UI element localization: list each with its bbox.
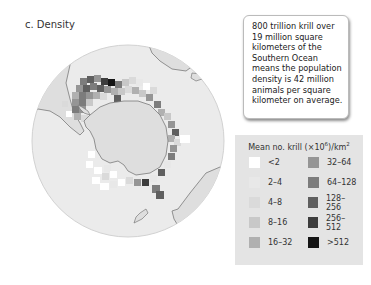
legend-item-256-512: 256–512 xyxy=(300,217,357,229)
legend-swatch xyxy=(249,177,260,188)
antarctic-density-map xyxy=(30,43,226,239)
legend-item-lt2: <2 xyxy=(241,157,298,169)
summary-callout: 800 trillion krill over 19 million squar… xyxy=(243,15,349,119)
legend-item-128-256: 128–256 xyxy=(300,197,357,209)
legend-grid: <2 32–64 2–4 64–128 4–8 128–256 8–16 256… xyxy=(241,157,357,249)
legend-swatch xyxy=(249,217,260,228)
legend-item-4-8: 4–8 xyxy=(241,197,298,209)
legend-swatch xyxy=(308,177,319,188)
legend-item-gt512: >512 xyxy=(300,237,357,249)
legend-swatch xyxy=(249,197,260,208)
legend-item-32-64: 32–64 xyxy=(300,157,357,169)
legend-swatch xyxy=(308,157,319,168)
legend-item-16-32: 16–32 xyxy=(241,237,298,249)
legend-item-2-4: 2–4 xyxy=(241,177,298,189)
panel-title: c. Density xyxy=(25,19,75,30)
legend-title: Mean no. krill (×106)/km2 xyxy=(241,141,357,152)
legend-swatch xyxy=(308,237,319,248)
globe-map-svg xyxy=(30,43,226,239)
legend-item-64-128: 64–128 xyxy=(300,177,357,189)
callout-text: 800 trillion krill over 19 million squar… xyxy=(252,21,342,105)
density-legend: Mean no. krill (×106)/km2 <2 32–64 2–4 6… xyxy=(235,135,363,265)
legend-swatch xyxy=(308,217,318,228)
legend-swatch xyxy=(249,157,260,168)
legend-item-8-16: 8–16 xyxy=(241,217,298,229)
legend-swatch xyxy=(308,197,318,208)
legend-swatch xyxy=(249,237,260,248)
